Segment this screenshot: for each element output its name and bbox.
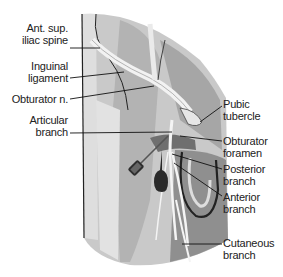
label-line: Obturator [223,135,268,147]
label-anterior-branch: Anterior branch [223,191,260,215]
label-posterior-branch: Posterior branch [223,163,265,187]
label-inguinal-ligament: Inguinal ligament [28,60,68,84]
label-line: Pubic [223,98,261,110]
label-line: iliac spine [22,34,68,46]
label-obturator-foramen: Obturator foramen [223,135,268,159]
label-line: Ant. sup. [22,22,68,34]
label-pubic-tubercle: Pubic tubercle [223,98,261,122]
label-line: tubercle [223,110,261,122]
label-line: Inguinal [28,60,68,72]
label-articular-branch: Articular branch [29,114,68,138]
label-cutaneous-branch: Cutaneous branch [223,237,274,261]
label-line: Obturator n. [12,93,68,105]
label-line: branch [223,203,260,215]
label-line: Cutaneous [223,237,274,249]
label-line: Articular [29,114,68,126]
label-line: branch [29,126,68,138]
label-line: Anterior [223,191,260,203]
label-line: branch [223,175,265,187]
label-obturator-n: Obturator n. [12,93,68,105]
label-line: branch [223,249,274,261]
label-line: ligament [28,72,68,84]
label-line: Posterior [223,163,265,175]
label-line: foramen [223,147,268,159]
anatomy-figure: Ant. sup. iliac spine Inguinal ligament … [0,0,283,277]
label-ant-sup-iliac-spine: Ant. sup. iliac spine [22,22,68,46]
